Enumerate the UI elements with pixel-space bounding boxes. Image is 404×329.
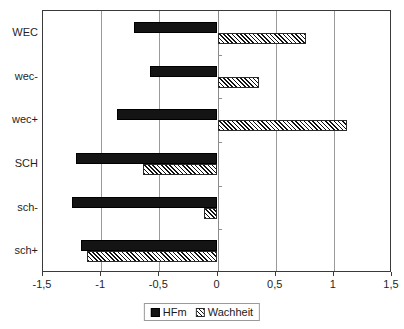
bar-wecminus-wachheit <box>218 77 260 88</box>
bar-schplus-wachheit <box>87 251 217 262</box>
gridline-x--0_5 <box>159 11 160 271</box>
x-tick-label: 1 <box>330 278 336 291</box>
legend-label-hfm: HFm <box>163 306 187 318</box>
legend-label-wachheit: Wachheit <box>208 306 253 318</box>
x-tick-label: 1,5 <box>383 278 398 291</box>
x-tick <box>100 272 101 276</box>
legend-swatch-wachheit <box>196 308 205 317</box>
bar-WEC-wachheit <box>218 33 306 44</box>
x-tick <box>42 272 43 276</box>
x-axis: -1,5-1-0,500,511,5 <box>42 272 391 298</box>
category-axis: WECwec-wec+SCHsch-sch+ <box>0 10 38 272</box>
legend-swatch-hfm <box>151 308 160 317</box>
x-tick-label: -0,5 <box>149 278 168 291</box>
gridline-x--1 <box>101 11 102 271</box>
bar-wecplus-wachheit <box>218 120 347 131</box>
gridline-x-0_5 <box>276 11 277 271</box>
category-label-schplus: sch+ <box>0 244 38 256</box>
bar-schplus-hfm <box>81 240 217 251</box>
bar-schminus-wachheit <box>204 208 218 219</box>
category-label-SCH: SCH <box>0 157 38 169</box>
bar-SCH-wachheit <box>143 164 217 175</box>
zero-axis-stub <box>218 142 222 143</box>
plot-area <box>42 10 391 272</box>
bar-SCH-hfm <box>76 153 218 164</box>
x-tick <box>333 272 334 276</box>
x-tick-label: -1 <box>95 278 105 291</box>
category-label-wecminus: wec- <box>0 70 38 82</box>
gridline-x-1 <box>334 11 335 271</box>
x-tick-label: -1,5 <box>33 278 52 291</box>
bar-chart: WECwec-wec+SCHsch-sch+ -1,5-1-0,500,511,… <box>0 0 404 329</box>
x-tick <box>158 272 159 276</box>
zero-axis-stub <box>218 229 222 230</box>
chart-legend: HFm Wachheit <box>144 303 260 321</box>
x-tick-label: 0 <box>213 278 219 291</box>
zero-axis-stub <box>218 55 222 56</box>
bar-WEC-hfm <box>134 22 218 33</box>
bar-wecplus-hfm <box>117 109 217 120</box>
x-tick-label: 0,5 <box>267 278 282 291</box>
legend-item-hfm: HFm <box>151 306 187 318</box>
gridline-x-0 <box>218 11 219 271</box>
legend-item-wachheit: Wachheit <box>196 306 253 318</box>
category-label-WEC: WEC <box>0 26 38 38</box>
category-label-schminus: sch- <box>0 201 38 213</box>
category-label-wecplus: wec+ <box>0 113 38 125</box>
x-tick <box>391 272 392 276</box>
bar-schminus-hfm <box>72 197 217 208</box>
zero-axis-stub <box>218 186 222 187</box>
bar-wecminus-hfm <box>150 66 217 77</box>
x-tick <box>217 272 218 276</box>
zero-axis-stub <box>218 98 222 99</box>
x-tick <box>275 272 276 276</box>
